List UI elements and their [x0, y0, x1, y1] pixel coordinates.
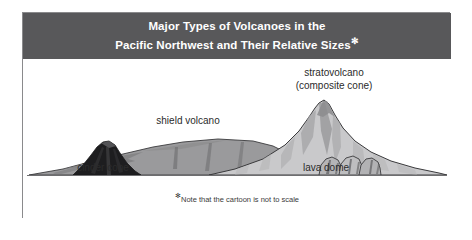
figure-header-bar: Major Types of Volcanoes in the Pacific …: [23, 13, 451, 59]
label-stratovolcano-line-2: (composite cone): [259, 80, 409, 93]
volcano-diagram: stratovolcano (composite cone) shield vo…: [23, 59, 451, 219]
title-footnote-marker-icon: ✻: [351, 36, 359, 46]
label-cinder-cone: cinder cone: [43, 162, 163, 175]
figure-title-line-1: Major Types of Volcanoes in the: [148, 19, 325, 34]
figure-footnote: ✻Note that the cartoon is not to scale: [23, 192, 451, 204]
footnote-text: Note that the cartoon is not to scale: [181, 195, 299, 204]
label-shield-volcano-line-1: shield volcano: [123, 115, 253, 128]
label-cinder-cone-line-1: cinder cone: [43, 162, 163, 175]
label-stratovolcano: stratovolcano (composite cone): [259, 67, 409, 92]
label-lava-dome-line-1: lava dome: [266, 162, 386, 175]
figure-title-text-1: Major Types of Volcanoes in the: [148, 20, 325, 32]
figure-title-text-2: Pacific Northwest and Their Relative Siz…: [115, 39, 351, 51]
figure-panel: Major Types of Volcanoes in the Pacific …: [22, 12, 450, 218]
label-lava-dome: lava dome: [266, 162, 386, 175]
label-stratovolcano-line-1: stratovolcano: [259, 67, 409, 80]
label-shield-volcano: shield volcano: [123, 115, 253, 128]
figure-title-line-2: Pacific Northwest and Their Relative Siz…: [115, 34, 359, 53]
